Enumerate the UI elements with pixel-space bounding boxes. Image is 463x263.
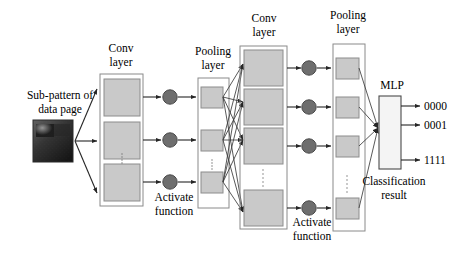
cnn-architecture-diagram: Sub-pattern of data page Conv layer Pool… — [0, 0, 463, 263]
conv-layer-1 — [100, 74, 143, 206]
activate1-label-line2: function — [155, 205, 194, 217]
pool2-label-line1: Pooling — [330, 9, 366, 22]
activation-nodes-2 — [287, 61, 331, 215]
pool2-label-line2: layer — [337, 23, 360, 36]
input-label-line2: data page — [38, 103, 82, 116]
conv2-label-line2: layer — [253, 26, 276, 39]
mlp-output-arrows — [401, 106, 420, 160]
activate2-label-line1: Activate — [293, 216, 332, 228]
mlp-label: MLP — [380, 79, 404, 91]
conv1-label-line2: layer — [110, 56, 133, 69]
conv2-feature-map-3 — [244, 128, 283, 164]
conv-layer-2 — [240, 46, 287, 229]
result-label-line1: Classification — [362, 175, 425, 187]
pool2-feature-map-2 — [336, 97, 359, 118]
activation-nodes-1 — [143, 90, 196, 189]
conv2-feature-map-1 — [244, 50, 283, 86]
conv1-label-line1: Conv — [109, 42, 134, 54]
input-label-line1: Sub-pattern of — [27, 89, 93, 102]
activation-node-1-1 — [163, 90, 177, 104]
pool1-feature-map-3 — [201, 172, 223, 193]
conv2-ellipsis — [262, 169, 264, 187]
pool2-feature-map-1 — [336, 58, 359, 79]
diagram-canvas: Sub-pattern of data page Conv layer Pool… — [0, 0, 463, 263]
activation-node-2-4 — [302, 201, 316, 215]
output-code-3: 1111 — [424, 154, 446, 166]
mlpconn-3 — [359, 128, 378, 146]
mlpconn-2 — [359, 107, 378, 128]
activation-node-1-2 — [163, 133, 177, 147]
mlp-box — [379, 96, 401, 169]
mlp-block — [379, 96, 401, 169]
pool1-feature-map-1 — [201, 87, 223, 108]
result-label-line2: result — [381, 189, 407, 201]
thumbnail-bright-patch — [36, 124, 54, 137]
pool1-label-line1: Pooling — [195, 45, 231, 58]
output-code-2: 0001 — [424, 119, 447, 131]
pool2-to-mlp-connections — [359, 68, 378, 208]
conv1-feature-map-1 — [104, 79, 140, 116]
pool1-feature-map-2 — [201, 130, 223, 151]
input-arrow-3 — [75, 141, 97, 193]
output-code-1: 0000 — [424, 100, 447, 112]
conv1-feature-map-3 — [104, 164, 140, 201]
pool1-label-line2: layer — [202, 59, 225, 72]
activation-node-2-2 — [302, 100, 316, 114]
activation-node-2-1 — [302, 61, 316, 75]
conv2-feature-map-4 — [244, 190, 283, 226]
conv2-label-line1: Conv — [252, 12, 277, 24]
pool2-ellipsis — [346, 175, 348, 193]
conv2-feature-map-2 — [244, 89, 283, 125]
activate1-label-line1: Activate — [155, 191, 194, 203]
thumbnail-dark-patch — [54, 124, 70, 136]
activate2-label-line2: function — [293, 230, 332, 242]
mlpconn-1 — [359, 68, 378, 128]
activation-node-2-3 — [302, 139, 316, 153]
pool2-feature-map-3 — [336, 136, 359, 157]
activation-node-1-3 — [163, 175, 177, 189]
input-thumbnail-group — [33, 120, 73, 162]
mlpconn-4 — [359, 128, 378, 208]
pool1-ellipsis — [211, 159, 213, 170]
pool2-feature-map-4 — [336, 198, 359, 219]
